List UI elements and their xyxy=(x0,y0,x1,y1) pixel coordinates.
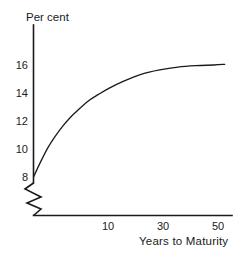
y-tick-label-14: 14 xyxy=(6,88,28,99)
y-tick-label-12: 12 xyxy=(6,116,28,127)
y-axis-title: Per cent xyxy=(26,12,69,23)
x-tick-label-30: 30 xyxy=(150,221,176,232)
y-tick-label-10: 10 xyxy=(6,144,28,155)
x-tick-label-10: 10 xyxy=(95,221,121,232)
x-tick-label-50: 50 xyxy=(205,221,231,232)
chart-container: Per cent 16 14 12 10 8 10 30 50 Years to… xyxy=(0,0,246,262)
axes-group xyxy=(25,25,232,216)
axis-break-zigzag-icon xyxy=(25,183,41,216)
series-group xyxy=(34,64,225,177)
y-tick-label-8: 8 xyxy=(6,172,28,183)
data-curve-yield xyxy=(34,64,225,177)
y-tick-label-16: 16 xyxy=(6,60,28,71)
x-axis-title: Years to Maturity xyxy=(139,236,228,247)
